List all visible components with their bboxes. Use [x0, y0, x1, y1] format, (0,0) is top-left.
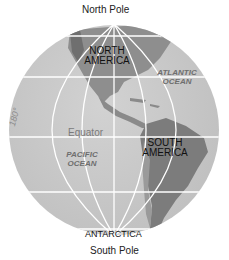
north-america-label-line2: AMERICA	[84, 56, 130, 66]
south-pole-label: South Pole	[90, 246, 139, 256]
antarctica-label: ANTARCTICA	[85, 230, 142, 239]
south-america-label-line2: AMERICA	[140, 148, 190, 158]
atlantic-ocean-label: ATLANTIC OCEAN	[152, 68, 202, 86]
pacific-label-line2: OCEAN	[62, 159, 102, 168]
globe-graphic	[0, 0, 229, 260]
pacific-ocean-label: PACIFIC OCEAN	[62, 150, 102, 168]
north-pole-label: North Pole	[82, 5, 129, 15]
equator-label: Equator	[68, 128, 103, 138]
south-america-label: SOUTH AMERICA	[140, 138, 190, 158]
atlantic-label-line2: OCEAN	[152, 77, 202, 86]
north-america-label: NORTH AMERICA	[84, 46, 130, 66]
atlantic-label-line1: ATLANTIC	[152, 68, 202, 77]
pacific-label-line1: PACIFIC	[62, 150, 102, 159]
